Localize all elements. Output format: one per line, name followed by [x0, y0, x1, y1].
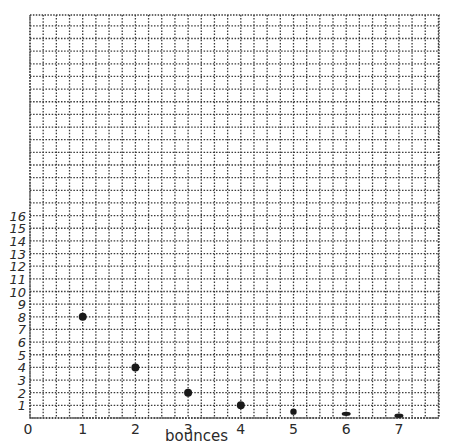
- x-tick-label: 7: [394, 421, 403, 437]
- x-tick-label: 2: [131, 421, 140, 437]
- data-point: [342, 412, 351, 416]
- data-point: [79, 313, 87, 321]
- data-point: [394, 414, 403, 418]
- y-axis-tick-labels: 12345678910111213141516: [9, 209, 26, 414]
- dotted-grid: [30, 15, 439, 418]
- x-tick-label: 0: [24, 421, 33, 437]
- grid-border: [30, 15, 439, 418]
- data-point: [290, 408, 296, 414]
- bounce-height-chart: 12345678910111213141516 01234567 bounces: [0, 0, 456, 445]
- y-tick-label: 16: [9, 209, 26, 224]
- data-point: [237, 401, 245, 409]
- x-tick-label: 6: [342, 421, 351, 437]
- data-point: [184, 389, 192, 397]
- x-axis-label: bounces: [165, 427, 228, 445]
- x-tick-label: 5: [289, 421, 298, 437]
- x-tick-label: 1: [78, 421, 87, 437]
- data-point: [131, 363, 139, 371]
- x-tick-label: 4: [236, 421, 245, 437]
